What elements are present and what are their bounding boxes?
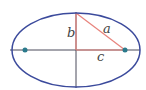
- label-c: c: [97, 49, 105, 64]
- label-a: a: [103, 21, 111, 36]
- label-b: b: [67, 25, 75, 40]
- right-focus-point: [123, 48, 128, 53]
- triangle-side-a: [76, 13, 125, 50]
- left-focus-point: [23, 48, 28, 53]
- ellipse-diagram: b a c: [0, 0, 146, 90]
